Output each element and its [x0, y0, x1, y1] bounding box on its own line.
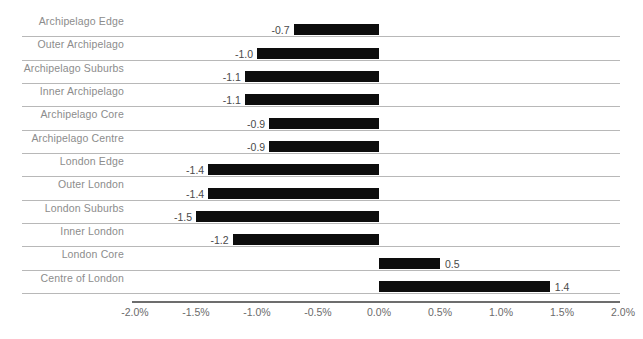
- chart-row: Archipelago Suburbs-1.1: [0, 61, 643, 84]
- x-axis-tick-label: 0.5%: [410, 305, 470, 319]
- category-label: Outer Archipelago: [0, 38, 124, 50]
- x-axis: -2.0%-1.5%-1.0%-0.5%0.0%0.5%1.0%1.5%2.0%: [0, 294, 643, 339]
- bar: [245, 94, 379, 105]
- bar-value-label: -1.1: [181, 71, 241, 84]
- chart-row: Outer Archipelago-1.0: [0, 37, 643, 60]
- bar: [196, 211, 379, 222]
- category-label: London Edge: [0, 155, 124, 167]
- chart-row: Archipelago Centre-0.9: [0, 131, 643, 154]
- category-label: Inner London: [0, 225, 124, 237]
- chart-row: Archipelago Edge-0.7: [0, 14, 643, 37]
- bar: [233, 234, 379, 245]
- chart-row: Inner Archipelago-1.1: [0, 84, 643, 107]
- category-label: Centre of London: [0, 272, 124, 284]
- x-axis-tick-label: -2.0%: [105, 305, 165, 319]
- chart-row: London Edge-1.4: [0, 154, 643, 177]
- chart-row: Outer London-1.4: [0, 177, 643, 200]
- bar-chart: Archipelago Edge-0.7Outer Archipelago-1.…: [0, 0, 643, 339]
- x-axis-tick-label: -0.5%: [288, 305, 348, 319]
- x-axis-line: [132, 301, 620, 303]
- chart-row: Centre of London1.4: [0, 271, 643, 294]
- bar: [379, 281, 550, 292]
- category-label: Outer London: [0, 178, 124, 190]
- bar: [269, 118, 379, 129]
- chart-row: Inner London-1.2: [0, 224, 643, 247]
- bar-value-label: -0.9: [205, 118, 265, 131]
- bar-value-label: -1.0: [193, 48, 253, 61]
- x-axis-tick-label: 0.0%: [349, 305, 409, 319]
- bar-value-label: 0.5: [445, 258, 505, 271]
- x-axis-tick-label: -1.0%: [227, 305, 287, 319]
- category-label: Archipelago Core: [0, 108, 124, 120]
- category-label: Archipelago Centre: [0, 132, 124, 144]
- category-label: Archipelago Suburbs: [0, 62, 124, 74]
- x-axis-tick-label: 2.0%: [593, 305, 643, 319]
- bar: [208, 188, 379, 199]
- chart-row: Archipelago Core-0.9: [0, 107, 643, 130]
- chart-row: London Suburbs-1.5: [0, 201, 643, 224]
- bar-value-label: -1.1: [181, 94, 241, 107]
- bar: [294, 24, 379, 35]
- category-label: London Core: [0, 248, 124, 260]
- x-axis-tick-label: 1.0%: [471, 305, 531, 319]
- chart-plot-area: Archipelago Edge-0.7Outer Archipelago-1.…: [0, 14, 643, 294]
- x-axis-tick-label: 1.5%: [532, 305, 592, 319]
- x-axis-tick-label: -1.5%: [166, 305, 226, 319]
- category-label: Inner Archipelago: [0, 85, 124, 97]
- bar-value-label: -1.4: [144, 164, 204, 177]
- bar: [208, 164, 379, 175]
- category-label: London Suburbs: [0, 202, 124, 214]
- bar: [245, 71, 379, 82]
- bar: [379, 258, 440, 269]
- bar-value-label: 1.4: [555, 281, 615, 294]
- bar-value-label: -0.7: [230, 24, 290, 37]
- bar-value-label: -1.5: [132, 211, 192, 224]
- bar: [257, 48, 379, 59]
- category-label: Archipelago Edge: [0, 15, 124, 27]
- bar: [269, 141, 379, 152]
- chart-row: London Core0.5: [0, 247, 643, 270]
- bar-value-label: -1.2: [169, 234, 229, 247]
- bar-value-label: -1.4: [144, 188, 204, 201]
- bar-value-label: -0.9: [205, 141, 265, 154]
